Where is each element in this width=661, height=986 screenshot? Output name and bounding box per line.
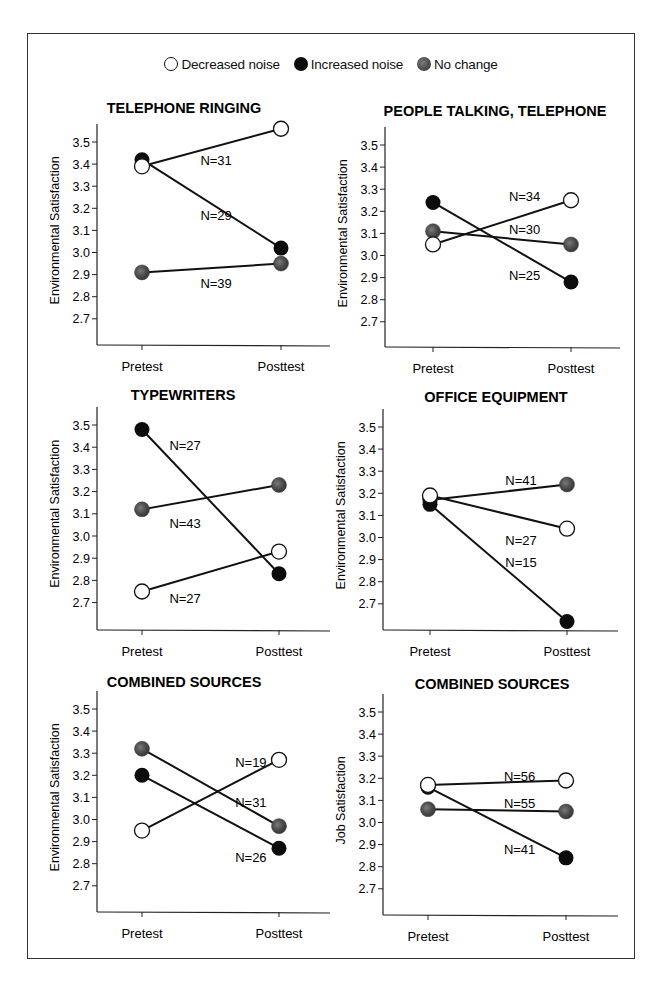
marker-no-change-posttest <box>560 477 575 492</box>
y-tick-label: 2.7 <box>73 596 90 610</box>
y-tick-label: 2.8 <box>73 290 90 304</box>
marker-no-change-pretest <box>421 802 436 817</box>
marker-decreased-posttest <box>560 521 575 536</box>
marker-no-change-posttest <box>274 256 289 271</box>
x-axis <box>97 630 330 631</box>
n-label-decreased: N=31 <box>200 153 231 168</box>
x-tick-label-posttest: Posttest <box>258 359 305 374</box>
n-label-increased: N=41 <box>504 842 535 857</box>
marker-increased-posttest <box>559 850 574 865</box>
y-tick-label: 3.1 <box>359 509 376 523</box>
n-label-no-change: N=39 <box>200 276 231 291</box>
n-label-decreased: N=34 <box>509 189 540 204</box>
y-tick-label: 2.9 <box>361 271 378 285</box>
series-line-increased <box>430 504 567 621</box>
n-label-increased: N=25 <box>509 268 540 283</box>
marker-decreased-pretest <box>426 237 441 252</box>
x-tick-label-pretest: Pretest <box>409 644 451 659</box>
y-axis-label: Environmental Satisfaction <box>48 440 62 588</box>
y-tick-label: 3.2 <box>73 769 90 783</box>
x-axis <box>385 347 620 348</box>
marker-no-change-posttest <box>564 237 579 252</box>
y-tick-label: 3.3 <box>361 183 378 197</box>
series-line-increased <box>142 775 279 848</box>
marker-decreased-pretest <box>423 488 438 503</box>
y-tick-label: 3.5 <box>359 421 376 435</box>
chart-title: TYPEWRITERS <box>131 387 236 403</box>
y-tick-label: 3.5 <box>73 703 90 717</box>
n-label-increased: N=15 <box>505 555 536 570</box>
y-axis-label: Environmental Satisfaction <box>334 441 348 589</box>
series-line-no-change <box>142 264 281 273</box>
n-label-increased: N=29 <box>200 208 231 223</box>
series-line-increased <box>428 787 566 858</box>
chart-panel-2: PEOPLE TALKING, TELEPHONE3.53.43.33.23.1… <box>336 103 620 376</box>
x-axis <box>383 630 618 631</box>
y-tick-label: 3.1 <box>73 507 90 521</box>
n-label-decreased: N=56 <box>504 769 535 784</box>
chart-title: PEOPLE TALKING, TELEPHONE <box>384 103 607 119</box>
y-tick-label: 2.8 <box>359 575 376 589</box>
marker-no-change-posttest <box>559 804 574 819</box>
x-tick-label-pretest: Pretest <box>121 926 163 941</box>
chart-panel-6: COMBINED SOURCES3.53.43.33.23.13.02.92.8… <box>334 676 618 944</box>
marker-decreased-posttest <box>559 773 574 788</box>
series-line-increased <box>142 429 279 573</box>
y-axis-label: Environmental Satisfaction <box>48 156 62 304</box>
y-tick-label: 3.2 <box>359 487 376 501</box>
chart-title: COMBINED SOURCES <box>107 674 262 690</box>
y-tick-label: 3.3 <box>359 465 376 479</box>
chart-panel-3: TYPEWRITERS3.53.43.33.23.13.02.92.82.7En… <box>48 387 330 659</box>
x-tick-label-pretest: Pretest <box>412 361 454 376</box>
n-label-no-change: N=55 <box>504 796 535 811</box>
marker-increased-posttest <box>560 614 575 629</box>
y-tick-label: 3.2 <box>359 772 376 786</box>
y-tick-label: 3.0 <box>361 249 378 263</box>
n-label-no-change: N=30 <box>509 222 540 237</box>
y-tick-label: 3.3 <box>73 180 90 194</box>
y-tick-label: 3.4 <box>359 728 376 742</box>
y-tick-label: 3.3 <box>359 750 376 764</box>
y-tick-label: 3.4 <box>73 441 90 455</box>
x-tick-label-pretest: Pretest <box>121 644 163 659</box>
y-tick-label: 3.4 <box>361 161 378 175</box>
y-tick-label: 3.2 <box>73 485 90 499</box>
y-tick-label: 3.1 <box>73 791 90 805</box>
y-tick-label: 3.3 <box>73 747 90 761</box>
y-tick-label: 2.9 <box>359 838 376 852</box>
y-tick-label: 3.4 <box>73 158 90 172</box>
marker-no-change-pretest <box>135 741 150 756</box>
chart-title: OFFICE EQUIPMENT <box>424 389 568 405</box>
y-tick-label: 2.7 <box>359 597 376 611</box>
y-tick-label: 3.2 <box>361 205 378 219</box>
marker-increased-pretest <box>135 768 150 783</box>
chart-panel-5: COMBINED SOURCES3.53.43.33.23.13.02.92.8… <box>48 674 330 941</box>
marker-decreased-posttest <box>564 193 579 208</box>
y-tick-label: 3.0 <box>73 813 90 827</box>
y-tick-label: 2.9 <box>73 268 90 282</box>
series-line-no-change <box>430 484 567 499</box>
y-tick-label: 3.0 <box>73 246 90 260</box>
n-label-increased: N=26 <box>235 850 266 865</box>
y-tick-label: 2.9 <box>73 552 90 566</box>
marker-increased-posttest <box>274 241 289 256</box>
marker-no-change-pretest <box>135 502 150 517</box>
y-tick-label: 3.5 <box>361 139 378 153</box>
chart-title: COMBINED SOURCES <box>415 676 570 692</box>
n-label-no-change: N=43 <box>169 516 200 531</box>
series-line-no-change <box>428 809 566 811</box>
marker-decreased-pretest <box>421 777 436 792</box>
series-line-decreased <box>430 496 567 529</box>
chart-panel-1: TELEPHONE RINGING3.53.43.33.23.13.02.92.… <box>48 100 330 374</box>
y-tick-label: 3.5 <box>73 136 90 150</box>
marker-decreased-posttest <box>274 121 289 136</box>
x-tick-label-posttest: Posttest <box>548 361 595 376</box>
y-tick-label: 3.5 <box>359 706 376 720</box>
x-axis <box>383 915 618 916</box>
y-tick-label: 3.0 <box>359 816 376 830</box>
chart-title: TELEPHONE RINGING <box>107 100 262 116</box>
y-tick-label: 2.7 <box>73 879 90 893</box>
marker-increased-posttest <box>564 275 579 290</box>
y-tick-label: 3.1 <box>359 794 376 808</box>
n-label-decreased: N=27 <box>505 533 536 548</box>
